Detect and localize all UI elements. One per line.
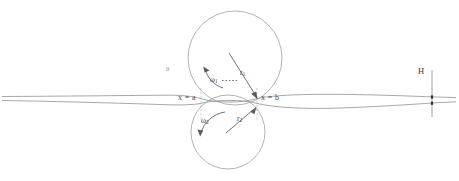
label-x-equals-b: x = b [261, 94, 280, 102]
upper-roll [188, 11, 282, 105]
label-H: H [418, 67, 424, 76]
label-omega-2: ω2 [201, 117, 209, 126]
strip-upper-surface [2, 95, 201, 98]
label-omega-1-subscript: 1 [215, 78, 218, 84]
label-omega-1: ω1 [210, 76, 218, 85]
strip-lower-surface [2, 101, 201, 105]
label-r-1-subscript: 1 [243, 71, 246, 77]
radius-1-arrow-head [251, 92, 257, 100]
label-omega-2-subscript: 2 [206, 119, 209, 125]
strip-upper-surface-exit [257, 94, 456, 98]
omega-2-arrow-head [197, 129, 203, 136]
label-r-1: r1 [240, 69, 245, 78]
label-r-2: r2 [237, 115, 242, 124]
omega-1-arrow-head [203, 67, 209, 73]
figure-canvas [0, 0, 459, 181]
rolling-mill-figure: x = a x = b ω1 r1 ω2 r2 H θ [0, 0, 459, 181]
label-theta: θ [166, 66, 169, 73]
strip-lower-surface-exit [257, 102, 456, 109]
label-x-equals-a: x = a [178, 94, 196, 102]
label-r-2-subscript: 2 [240, 117, 243, 123]
radius-2-arrow-head [250, 107, 256, 114]
